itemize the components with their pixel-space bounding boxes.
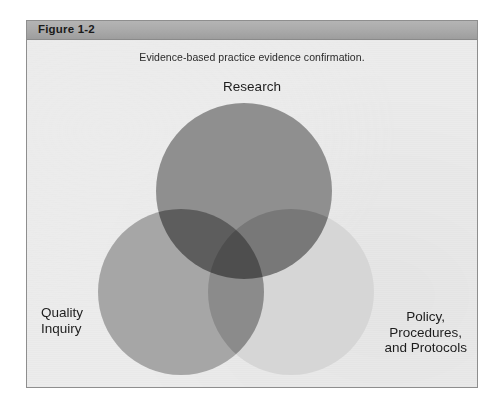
venn-label-quality-inquiry: Quality Inquiry xyxy=(41,305,83,336)
venn-circle-policy-procedures-protocols xyxy=(208,209,374,375)
venn-label-policy-procedures-protocols: Policy, Procedures, and Protocols xyxy=(384,309,467,356)
venn-label-policy-line-2: Procedures, xyxy=(384,325,467,341)
figure-number-label: Figure 1-2 xyxy=(38,23,95,35)
figure-panel: Figure 1-2 Evidence-based practice evide… xyxy=(26,20,478,388)
figure-header-band: Figure 1-2 xyxy=(27,21,477,40)
figure-caption: Evidence-based practice evidence confirm… xyxy=(27,51,477,63)
venn-label-policy-line-3: and Protocols xyxy=(384,340,467,356)
venn-label-research-text: Research xyxy=(223,79,281,94)
venn-label-research: Research xyxy=(27,79,477,95)
venn-label-quality-line-1: Quality xyxy=(41,305,83,321)
venn-label-policy-line-1: Policy, xyxy=(384,309,467,325)
venn-label-quality-line-2: Inquiry xyxy=(41,321,83,337)
